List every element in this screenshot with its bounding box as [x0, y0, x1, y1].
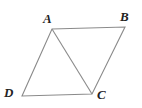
parallelogram-outline: [22, 27, 125, 96]
vertex-label-a: A: [43, 12, 52, 25]
geometry-figure: A B C D: [0, 0, 142, 108]
vertex-label-d: D: [4, 86, 13, 99]
vertex-label-c: C: [97, 88, 106, 101]
vertex-label-b: B: [120, 10, 129, 23]
diagonal-ac: [52, 29, 92, 94]
